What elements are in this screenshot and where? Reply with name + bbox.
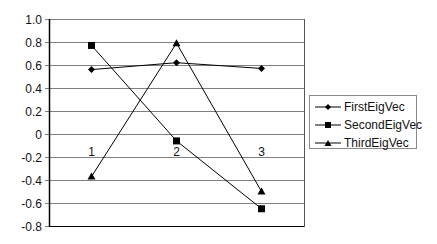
category-label: 3 [258,145,265,159]
y-tick-label: -0.6 [21,197,42,211]
triangle-marker-icon [88,173,96,180]
category-label: 2 [173,145,180,159]
diamond-marker-icon [315,101,341,113]
legend: FirstEigVec SecondEigVec ThirdEigVec [309,95,417,149]
square-marker-icon [88,42,95,49]
y-tick-label: -0.4 [21,174,42,188]
legend-item-first-eigvec: FirstEigVec [310,98,416,116]
legend-item-second-eigvec: SecondEigVec [310,116,416,134]
square-marker-icon [173,137,180,144]
y-tick-label: 0.6 [25,59,42,73]
square-marker-icon [315,119,341,131]
y-tick-label: 0 [35,128,42,142]
triangle-marker-icon [315,137,341,149]
y-tick-label: -0.8 [21,220,42,234]
legend-item-third-eigvec: ThirdEigVec [310,134,416,152]
diamond-marker-icon [88,66,95,73]
legend-label: ThirdEigVec [344,136,409,150]
y-tick-label: -0.2 [21,151,42,165]
gridlines [45,20,304,227]
y-tick-label: 0.4 [25,82,42,96]
y-axis-tick-labels: 1.00.80.60.40.20-0.2-0.4-0.6-0.8 [21,13,42,234]
y-tick-label: 0.2 [25,105,42,119]
square-marker-icon [258,205,265,212]
legend-label: SecondEigVec [344,118,422,132]
category-label: 1 [88,145,95,159]
legend-label: FirstEigVec [344,100,405,114]
triangle-marker-icon [258,188,266,195]
y-tick-label: 1.0 [25,13,42,27]
y-tick-label: 0.8 [25,36,42,50]
